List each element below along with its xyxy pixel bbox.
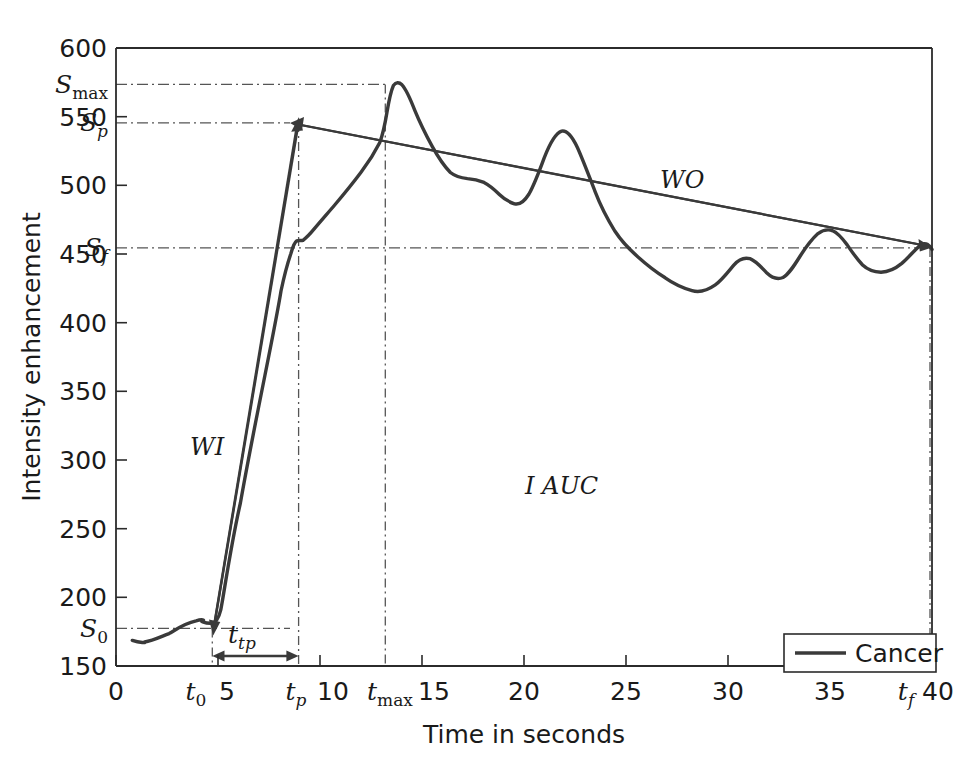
x-tick-label: 10 <box>317 677 349 706</box>
annotation-wash-in: WI <box>190 433 225 461</box>
y-tick-label: 400 <box>59 309 107 338</box>
y-symbol-label-s-f: Sf <box>85 233 111 266</box>
y-tick-label: 600 <box>59 34 107 63</box>
x-symbol-label-t-p: tp <box>286 677 307 710</box>
x-tick-label: 30 <box>712 677 744 706</box>
y-tick-label: 250 <box>59 515 107 544</box>
x-axis-title: Time in seconds <box>422 720 625 749</box>
x-tick-label: 0 <box>108 677 124 706</box>
legend[interactable]: Cancer <box>784 634 944 672</box>
plot-background <box>116 48 932 666</box>
x-tick-label: 15 <box>418 677 450 706</box>
y-symbol-label-s-max: Smax <box>55 70 108 103</box>
annotation-wash-out: WO <box>660 166 705 194</box>
y-tick-label: 200 <box>59 583 107 612</box>
x-tick-label: 40 <box>922 677 954 706</box>
x-symbol-label-t-0: t0 <box>186 677 207 710</box>
y-symbol-label-s-0: S0 <box>80 614 108 647</box>
annotation-initial-auc: I AUC <box>524 472 598 500</box>
x-tick-label: 20 <box>508 677 540 706</box>
y-axis-title: Intensity enhancement <box>17 212 46 502</box>
y-tick-label: 300 <box>59 446 107 475</box>
x-symbol-label-t-f: tf <box>898 677 917 710</box>
x-tick-label: 5 <box>219 677 235 706</box>
x-tick-label: 25 <box>610 677 642 706</box>
chart-page: 600 550 500 450 400 350 300 250 200 150 … <box>0 0 972 783</box>
y-symbol-labels: Smax Sp Sf S0 <box>55 70 111 647</box>
x-tick-labels: 0 5 10 15 20 25 30 35 40 <box>108 677 954 706</box>
y-tick-label: 350 <box>59 377 107 406</box>
y-tick-label: 500 <box>59 171 107 200</box>
legend-label-cancer: Cancer <box>855 639 944 668</box>
dce-mri-intensity-chart: 600 550 500 450 400 350 300 250 200 150 … <box>0 0 972 783</box>
x-symbol-labels: t0 tp tmax tf <box>186 677 917 710</box>
x-symbol-label-t-max: tmax <box>367 677 413 710</box>
y-tick-label: 150 <box>59 652 107 681</box>
x-tick-label: 35 <box>814 677 846 706</box>
